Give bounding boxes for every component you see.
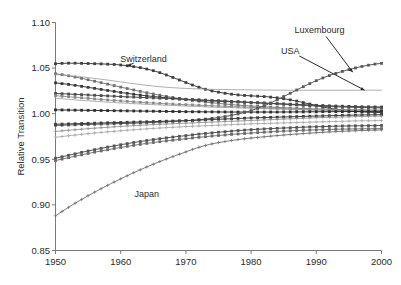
x-tick-label: 1980 (241, 256, 262, 267)
series-marker (93, 62, 96, 65)
series-marker (237, 133, 240, 136)
series-marker (87, 62, 90, 65)
series-marker (295, 129, 298, 132)
series-marker (328, 125, 331, 128)
series-marker (185, 110, 188, 113)
y-tick-label: 1.00 (32, 108, 51, 119)
series-marker (224, 134, 227, 137)
series-marker (328, 105, 331, 108)
series-marker (152, 110, 155, 113)
series-marker (100, 88, 103, 91)
series-marker (165, 97, 168, 100)
series-marker (198, 98, 201, 101)
series-marker (178, 98, 181, 101)
series-marker (243, 94, 246, 97)
series-marker (152, 97, 155, 100)
x-tick-label: 1990 (306, 256, 327, 267)
series-marker (224, 92, 227, 95)
series-marker (93, 98, 96, 101)
series-marker (237, 94, 240, 97)
series-marker (341, 106, 344, 109)
series-marker (237, 100, 240, 103)
series-marker (282, 95, 285, 98)
series-marker (113, 95, 116, 98)
series-marker (132, 65, 135, 68)
series-marker (276, 102, 279, 105)
series-marker (165, 110, 168, 113)
series-marker (237, 129, 240, 132)
series-marker (126, 121, 129, 124)
series-marker (165, 102, 168, 105)
series-marker (80, 151, 83, 154)
series-marker (204, 135, 207, 138)
annotation-label-japan: Japan (135, 189, 160, 199)
series-marker (204, 99, 207, 102)
series-marker (328, 74, 331, 77)
y-axis-title: Relative Transition (15, 97, 26, 175)
series-marker (54, 108, 57, 111)
series-marker (158, 140, 161, 143)
series-marker (191, 98, 194, 101)
series-marker (132, 121, 135, 124)
series-marker (80, 93, 83, 96)
series-marker (230, 111, 233, 114)
series-marker (67, 83, 70, 86)
series-marker (106, 148, 109, 151)
series-marker (54, 81, 57, 84)
series-marker (289, 98, 292, 101)
series-marker (380, 110, 383, 113)
series-marker (87, 150, 90, 153)
series-marker (250, 132, 253, 135)
series-marker (139, 110, 142, 113)
series-marker (334, 110, 337, 113)
series-marker (61, 109, 64, 112)
series-marker (191, 84, 194, 87)
series-marker (158, 120, 161, 123)
series-marker (224, 111, 227, 114)
series-marker (126, 87, 129, 90)
series-marker (204, 110, 207, 113)
series-marker (132, 100, 135, 103)
series-marker (152, 138, 155, 141)
series-marker (198, 110, 201, 113)
series-marker (67, 109, 70, 112)
series-marker (308, 126, 311, 129)
series-marker (185, 137, 188, 140)
series-marker (230, 93, 233, 96)
series-marker (54, 62, 57, 65)
series-marker (217, 99, 220, 102)
series-marker (374, 124, 377, 127)
series-marker (211, 90, 214, 93)
series-marker (132, 144, 135, 147)
series-marker (230, 133, 233, 136)
series-marker (374, 110, 377, 113)
x-tick-label: 1960 (110, 256, 131, 267)
series-marker (191, 137, 194, 140)
series-marker (119, 91, 122, 94)
series-marker (348, 106, 351, 109)
y-tick-label: 0.90 (32, 199, 51, 210)
series-marker (106, 63, 109, 66)
series-marker (237, 113, 240, 116)
x-tick-label: 2000 (371, 256, 392, 267)
series-marker (302, 110, 305, 113)
series-marker (80, 96, 83, 99)
series-marker (276, 127, 279, 130)
series-marker (263, 102, 266, 105)
series-marker (348, 125, 351, 128)
series-marker (100, 150, 103, 153)
series-marker (113, 90, 116, 93)
series-marker (61, 92, 64, 95)
series-marker (282, 103, 285, 106)
x-tick-label: 1970 (175, 256, 196, 267)
series-marker (113, 121, 116, 124)
series-marker (100, 63, 103, 66)
series-marker (211, 131, 214, 134)
series-marker (145, 142, 148, 145)
y-axis-title-group: Relative Transition (15, 97, 26, 175)
series-marker (328, 110, 331, 113)
series-marker (119, 95, 122, 98)
series-marker (113, 144, 116, 147)
y-tick-label: 0.95 (32, 154, 51, 165)
series-marker (113, 109, 116, 112)
